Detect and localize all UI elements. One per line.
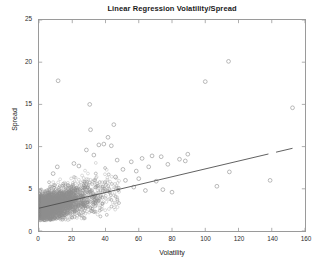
x-tick-label: 160 (293, 235, 319, 242)
x-tick-label: 80 (159, 235, 185, 242)
scatter-plot-svg (39, 20, 305, 231)
y-tick-label: 0 (6, 228, 32, 235)
y-tick-label: 5 (6, 185, 32, 192)
scatter-points-layer (39, 59, 294, 221)
plot-area[interactable] (38, 19, 306, 232)
x-tick-label: 0 (25, 235, 51, 242)
x-tick-label: 40 (92, 235, 118, 242)
x-tick-label: 120 (226, 235, 252, 242)
chart-title: Linear Regression Volatility/Spread (38, 4, 306, 13)
x-tick-label: 140 (260, 235, 286, 242)
y-axis-label: Spread (11, 90, 18, 150)
figure-canvas: Linear Regression Volatility/Spread 0510… (0, 0, 322, 271)
x-tick-label: 60 (126, 235, 152, 242)
y-tick-label: 25 (6, 15, 32, 22)
x-axis-label: Volatility (38, 249, 306, 256)
x-tick-label: 20 (59, 235, 85, 242)
y-tick-label: 20 (6, 58, 32, 65)
x-tick-label: 100 (193, 235, 219, 242)
